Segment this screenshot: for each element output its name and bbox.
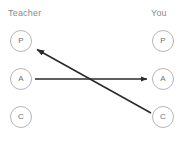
arrow-child-to-parent (37, 50, 151, 114)
node-you-child: C (152, 106, 174, 128)
node-letter: C (11, 107, 31, 127)
node-letter: P (153, 31, 173, 51)
node-teacher-child: C (10, 106, 32, 128)
node-teacher-parent: P (10, 30, 32, 52)
transaction-diagram: Teacher You P A C P A C (0, 0, 185, 146)
column-label-you: You (151, 9, 167, 18)
node-letter: C (153, 107, 173, 127)
node-teacher-adult: A (10, 68, 32, 90)
node-letter: A (11, 69, 31, 89)
column-label-teacher: Teacher (8, 9, 41, 18)
node-letter: A (153, 69, 173, 89)
node-you-adult: A (152, 68, 174, 90)
node-letter: P (11, 31, 31, 51)
node-you-parent: P (152, 30, 174, 52)
